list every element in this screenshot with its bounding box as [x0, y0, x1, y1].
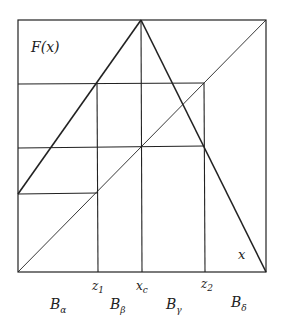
vertical-xc [141, 20, 142, 272]
tick-z1: z1 [92, 279, 104, 295]
region-b-alpha-name: B [50, 296, 60, 312]
region-b-gamma-sub: γ [176, 305, 181, 315]
region-b-beta-name: B [110, 296, 120, 312]
x-axis-label: x [238, 247, 245, 262]
tick-z1-sub: 1 [98, 285, 104, 295]
horizontal-middle [18, 146, 204, 148]
horizontal-lower [18, 193, 97, 194]
vertical-z2 [204, 83, 205, 272]
region-b-delta: Bδ [231, 294, 247, 313]
tick-xc-name: x [136, 279, 143, 293]
region-b-delta-name: B [231, 294, 241, 310]
region-b-alpha: Bα [50, 296, 66, 315]
region-b-delta-sub: δ [241, 303, 246, 313]
region-b-beta: Bβ [110, 296, 126, 315]
region-b-alpha-sub: α [60, 305, 66, 315]
tick-z2: z2 [201, 277, 213, 293]
tick-xc: xc [136, 279, 148, 295]
function-label: F(x) [31, 39, 60, 55]
tick-xc-sub: c [143, 285, 148, 295]
region-b-beta-sub: β [120, 305, 125, 315]
region-b-gamma: Bγ [166, 296, 182, 315]
horizontal-upper [18, 83, 204, 84]
tick-z2-sub: 2 [207, 283, 213, 293]
region-b-gamma-name: B [166, 296, 176, 312]
vertical-z1 [97, 84, 98, 272]
